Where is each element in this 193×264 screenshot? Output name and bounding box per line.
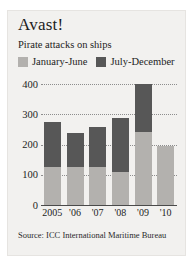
gridline-300 [41, 114, 177, 115]
chart-figure: Avast! Pirate attacks on ships January-J… [8, 11, 185, 255]
bar-segment-january-june [157, 146, 174, 205]
bar-segment-july-december [44, 122, 61, 168]
bar-segment-january-june [135, 132, 152, 205]
bar-segment-july-december [112, 118, 129, 172]
x-tick-label-06: '06 [64, 207, 87, 219]
x-tick-label-09: '09 [132, 207, 155, 219]
y-tick-200: 200 [8, 139, 38, 150]
bar-segment-january-june [112, 172, 129, 205]
bar-segment-january-june [89, 167, 106, 205]
y-tick-label: 200 [11, 139, 38, 150]
y-tick-label: 300 [11, 109, 38, 120]
bar-segment-july-december [135, 84, 152, 132]
bar-segment-january-june [67, 167, 84, 205]
x-tick-label-07: '07 [86, 207, 109, 219]
bar-segment-january-june [44, 167, 61, 205]
y-tick-0: 0 [8, 200, 38, 211]
bar-06 [67, 133, 84, 205]
y-tick-label: 400 [11, 79, 38, 90]
y-tick-label: 100 [11, 169, 38, 180]
bar-segment-july-december [67, 133, 84, 167]
x-tick-label-2005: 2005 [41, 207, 64, 219]
bar-10 [157, 146, 174, 205]
x-tick-label-08: '08 [109, 207, 132, 219]
y-tick-100: 100 [8, 169, 38, 180]
y-tick-400: 400 [8, 79, 38, 90]
bar-segment-july-december [89, 127, 106, 167]
bar-07 [89, 127, 106, 205]
plot-area: 4003002001000 2005'06'07'08'09'10 [8, 11, 185, 255]
source-note: Source: ICC International Maritime Burea… [18, 230, 166, 241]
gridline-400 [41, 84, 177, 85]
bar-2005 [44, 122, 61, 205]
x-tick-label-10: '10 [154, 207, 177, 219]
y-tick-label: 0 [11, 200, 38, 211]
bar-09 [135, 84, 152, 205]
bar-08 [112, 118, 129, 205]
x-axis-line [41, 205, 177, 206]
y-tick-300: 300 [8, 109, 38, 120]
